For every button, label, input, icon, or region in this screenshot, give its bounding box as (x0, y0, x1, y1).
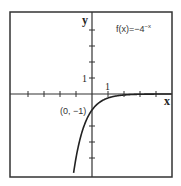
x-tick-label-1: 1 (105, 81, 110, 92)
function-label: f(x)=−4−x (116, 23, 151, 34)
function-curve-path (74, 94, 172, 173)
x-axis-label: x (164, 94, 170, 108)
y-axis-label: y (82, 13, 88, 27)
function-graph: y x 1 1 f(x)=−4−x (0, −1) (0, 0, 181, 186)
point-annotation: (0, −1) (60, 106, 86, 116)
y-tick-label-1: 1 (82, 73, 87, 84)
